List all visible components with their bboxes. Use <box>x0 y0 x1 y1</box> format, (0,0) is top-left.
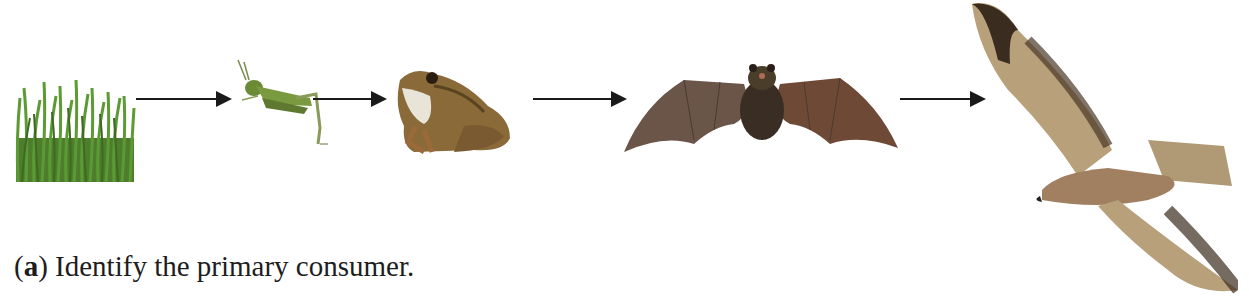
question-a: (a) Identify the primary consumer. <box>14 250 414 283</box>
arrow-grass-to-grasshopper <box>136 98 230 100</box>
arrow-frog-to-bat <box>533 98 625 100</box>
grasshopper-image <box>236 58 330 148</box>
question-label: (a) <box>14 250 48 282</box>
arrow-grasshopper-to-frog <box>313 98 385 100</box>
hawk-image <box>968 0 1238 296</box>
question-text: Identify the primary consumer. <box>55 250 414 282</box>
grass-image <box>14 78 136 184</box>
frog-image <box>394 66 518 158</box>
bat-image <box>624 64 898 154</box>
